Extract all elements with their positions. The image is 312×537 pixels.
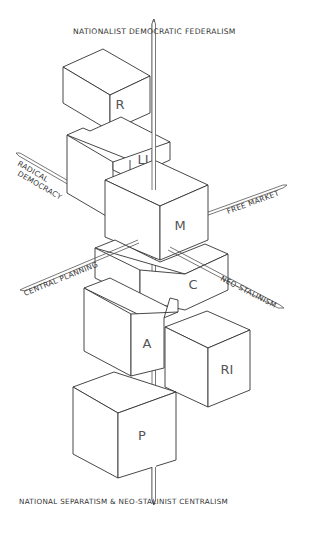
axis-label-free-market: Free Market: [226, 189, 281, 216]
cube-label-m: M: [174, 218, 185, 233]
political-cube-diagram: R LI M C: [0, 0, 312, 537]
cube-label-ri: RI: [221, 362, 234, 377]
cube-label-p: P: [138, 428, 146, 443]
cube-label-a: A: [143, 336, 152, 351]
cube-label-r: R: [115, 97, 124, 112]
axis-label-top: Nationalist Democratic Federalism: [73, 27, 236, 36]
cube-label-c: C: [188, 277, 197, 292]
cube-r: R: [63, 49, 150, 131]
vertical-axis-m-top: [152, 150, 156, 190]
axis-label-neo-stalinism: Neo-Stalinism: [219, 274, 278, 310]
cube-p: P: [73, 372, 176, 478]
axis-label-bottom: National Separatism & Neo-Stalinist Cent…: [19, 497, 228, 506]
cube-ri: RI: [165, 311, 250, 407]
